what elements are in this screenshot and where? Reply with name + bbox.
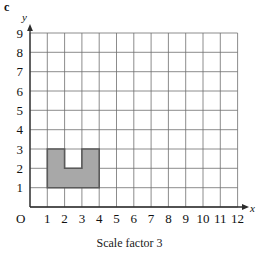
- y-axis-arrow-icon: [27, 24, 33, 31]
- y-tick-label: 5: [5, 104, 23, 117]
- x-axis-label: x: [250, 203, 255, 214]
- y-tick-label: 8: [5, 46, 23, 59]
- x-axis-arrow-icon: [242, 204, 249, 210]
- y-tick-label: 4: [5, 123, 23, 136]
- figure-caption: Scale factor 3: [0, 236, 259, 250]
- y-tick-label: 3: [5, 143, 23, 156]
- y-tick-label: 7: [5, 65, 23, 78]
- u-shape-polygon: [47, 149, 99, 188]
- y-tick-label: 2: [5, 162, 23, 175]
- y-tick-label: 6: [5, 85, 23, 98]
- y-axis-label: y: [22, 12, 27, 23]
- y-tick-label: 9: [5, 27, 23, 40]
- x-tick-label: 12: [228, 212, 248, 225]
- part-letter-label: c: [4, 1, 9, 13]
- scale-factor-figure: c y x O: [0, 0, 259, 260]
- origin-label: O: [16, 212, 25, 225]
- y-tick-label: 1: [5, 181, 23, 194]
